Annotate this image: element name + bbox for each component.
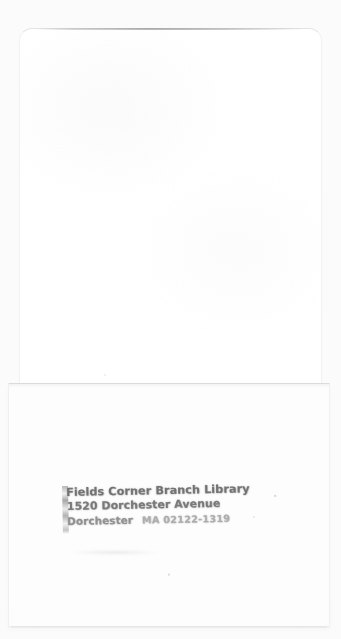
- scanned-page: Fields Corner Branch Library 1520 Dorche…: [0, 0, 341, 639]
- stamp-ink-speck: [274, 495, 276, 497]
- scan-dust-speck: [104, 374, 106, 376]
- stamp-city: Dorchester: [67, 514, 133, 527]
- book-leaf-panel: [19, 28, 322, 388]
- scan-dust-speck: [168, 573, 170, 576]
- stamp-state-zip: MA 02122-1319: [142, 513, 230, 526]
- stamp-line-street-address: 1520 Dorchester Avenue: [67, 498, 263, 513]
- stamp-ink-smudge: [52, 549, 178, 556]
- scan-dust-speck: [253, 516, 255, 518]
- library-address-stamp: Fields Corner Branch Library 1520 Dorche…: [66, 483, 263, 527]
- stamp-line-library-name: Fields Corner Branch Library: [66, 483, 262, 498]
